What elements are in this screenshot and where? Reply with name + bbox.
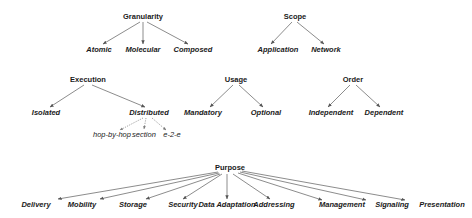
node-storage: Storage: [119, 200, 147, 209]
node-application: Application: [257, 45, 299, 54]
node-mandatory: Mandatory: [184, 108, 223, 117]
node-composed: Composed: [174, 45, 213, 54]
node-optional: Optional: [251, 108, 282, 117]
node-signaling: Signaling: [375, 200, 409, 209]
node-network: Network: [311, 45, 341, 54]
node-independent: Independent: [309, 108, 354, 117]
node-atomic: Atomic: [85, 45, 112, 54]
node-presentation: Presentation: [419, 200, 465, 209]
node-e-2-e: e-2-e: [163, 130, 181, 139]
tree-execution: Execution Isolated Distributed hop-by-ho…: [32, 75, 181, 139]
node-scope: Scope: [284, 12, 307, 21]
node-security: Security: [168, 200, 198, 209]
node-isolated: Isolated: [32, 108, 61, 117]
tree-usage: Usage Mandatory Optional: [184, 75, 282, 117]
tree-order: Order Independent Dependent: [309, 75, 404, 117]
node-purpose: Purpose: [215, 163, 245, 172]
node-granularity: Granularity: [123, 12, 164, 21]
tree-purpose: Purpose Delivery Mobility Storage Securi…: [21, 163, 465, 209]
node-mobility: Mobility: [68, 200, 97, 209]
tree-scope: Scope Application Network: [257, 12, 342, 54]
node-management: Management: [319, 200, 365, 209]
node-molecular: Molecular: [125, 45, 161, 54]
node-hop-by-hop: hop-by-hop: [93, 130, 131, 139]
taxonomy-diagram: Granularity Atomic Molecular Composed Sc…: [0, 0, 472, 218]
tree-granularity: Granularity Atomic Molecular Composed: [85, 12, 212, 54]
node-delivery: Delivery: [21, 200, 51, 209]
node-data-adaptation: Data Adaptation: [198, 200, 256, 209]
node-execution: Execution: [70, 75, 106, 84]
node-section: section: [132, 130, 156, 139]
node-distributed: Distributed: [129, 108, 169, 117]
node-dependent: Dependent: [365, 108, 404, 117]
node-usage: Usage: [225, 75, 248, 84]
node-order: Order: [343, 75, 364, 84]
node-addressing: Addressing: [252, 200, 295, 209]
